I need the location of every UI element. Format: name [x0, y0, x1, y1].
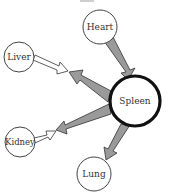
node-heart: Heart [83, 10, 117, 44]
arrow-liver-to-spleen [33, 55, 68, 74]
node-heart-label: Heart [87, 22, 114, 32]
cropped-title-fragment [80, 0, 94, 2]
node-lung-label: Lung [82, 169, 106, 179]
arrow-spleen-to-kidney [56, 104, 111, 134]
node-lung: Lung [77, 157, 111, 191]
arrow-spleen-to-lung [104, 124, 130, 160]
node-kidney-label: Kidney [5, 137, 35, 147]
arrow-heart-to-spleen [104, 37, 135, 80]
organ-diagram: Heart Liver Spleen Kidney Lung [0, 0, 170, 192]
node-spleen-label: Spleen [119, 96, 150, 106]
node-spleen: Spleen [110, 76, 160, 126]
node-liver-label: Liver [7, 52, 31, 62]
node-liver: Liver [4, 42, 34, 72]
arrow-kidney-to-spleen [34, 131, 56, 143]
arrow-spleen-to-liver [69, 70, 111, 102]
node-kidney: Kidney [5, 127, 35, 157]
